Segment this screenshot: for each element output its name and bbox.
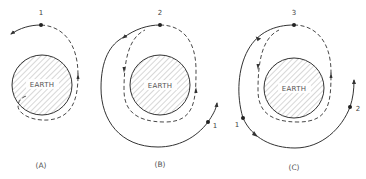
panel-a: EARTH 1 (A) (11, 9, 80, 170)
point-label-3: 3 (292, 9, 296, 17)
point-1 (206, 120, 210, 124)
solid-trajectory-exit (350, 80, 354, 107)
panel-caption-b: (B) (155, 160, 166, 169)
direction-arrow-icon (77, 73, 80, 79)
point-3 (292, 23, 296, 27)
solid-trajectory-top (123, 25, 160, 38)
point-label-1: 1 (235, 121, 239, 129)
panel-b: EARTH 2 1 (B) (101, 9, 217, 169)
earth-label: EARTH (30, 81, 55, 89)
point-label-1: 1 (213, 122, 217, 130)
point-label-1: 1 (39, 9, 43, 17)
direction-arrow-icon (330, 72, 333, 78)
point-label-2: 2 (158, 9, 162, 17)
point-1 (241, 116, 245, 120)
point-2 (158, 23, 162, 27)
direction-arrow-icon (195, 87, 198, 93)
earth-label: EARTH (282, 85, 307, 93)
panel-c: EARTH 3 1 2 (C) (235, 9, 360, 172)
earth-label: EARTH (148, 82, 173, 90)
point-2 (348, 105, 352, 109)
panel-caption-c: (C) (288, 163, 299, 172)
solid-trajectory (11, 25, 41, 34)
solid-trajectory-exit (208, 103, 217, 122)
orbit-diagram: EARTH 1 (A) EARTH 2 1 (B) EARTH (0, 0, 366, 179)
panel-caption-a: (A) (36, 161, 47, 170)
point-1 (39, 23, 43, 27)
point-label-2: 2 (356, 105, 360, 113)
